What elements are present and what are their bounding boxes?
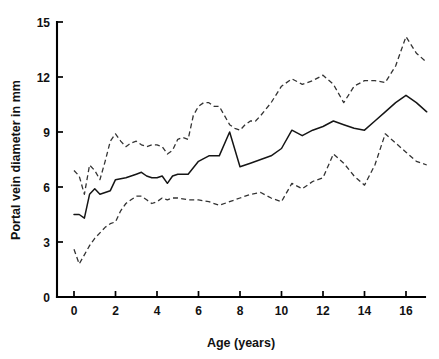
y-tick-label: 12 <box>37 71 51 85</box>
data-series-group <box>74 37 427 264</box>
x-tick-label: 4 <box>154 304 161 318</box>
tick-marks-group <box>57 22 406 297</box>
chart-container: 024681012141603691215 Age (years) Portal… <box>0 0 439 359</box>
y-tick-label: 6 <box>43 181 50 195</box>
x-tick-label: 16 <box>399 304 413 318</box>
y-axis-label: Portal vein diameter in mm <box>9 80 23 240</box>
y-tick-label: 0 <box>43 291 50 305</box>
x-tick-label: 0 <box>71 304 78 318</box>
x-tick-label: 2 <box>112 304 119 318</box>
x-tick-label: 10 <box>275 304 289 318</box>
x-tick-label: 6 <box>195 304 202 318</box>
x-tick-label: 8 <box>237 304 244 318</box>
x-tick-label: 12 <box>316 304 330 318</box>
y-tick-label: 3 <box>43 236 50 250</box>
x-axis-label: Age (years) <box>207 336 275 350</box>
y-tick-label: 15 <box>37 16 51 30</box>
x-tick-label: 14 <box>358 304 372 318</box>
y-tick-label: 9 <box>43 126 50 140</box>
percentile-series-line <box>74 37 427 195</box>
percentile-series-line <box>74 134 427 264</box>
line-chart-plot: 024681012141603691215 Age (years) Portal… <box>0 0 439 359</box>
median-series-line <box>74 95 427 218</box>
tick-labels-group: 024681012141603691215 <box>37 16 413 318</box>
